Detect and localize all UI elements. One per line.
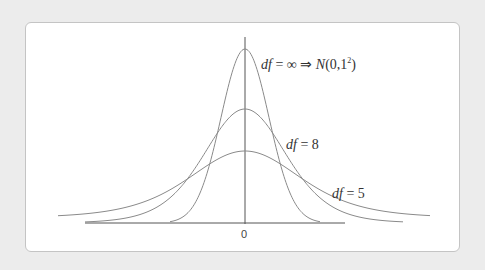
label-normal-n: N: [316, 57, 325, 72]
label-normal-params: (0,1: [325, 57, 347, 72]
label-df5: df = 5: [332, 186, 365, 202]
label-df8-df: df: [286, 137, 297, 152]
label-normal-eq: = ∞ ⇒: [272, 57, 316, 72]
label-df5-df: df: [332, 186, 343, 201]
curve-df5: [58, 151, 430, 216]
label-normal-df: df: [261, 57, 272, 72]
label-normal-close: ): [351, 57, 356, 72]
label-df5-value: = 5: [343, 186, 365, 201]
label-df8-value: = 8: [297, 137, 319, 152]
label-df8: df = 8: [286, 137, 319, 153]
x-tick-zero: 0: [241, 228, 247, 240]
label-normal: df = ∞ ⇒ N(0,12): [261, 56, 356, 73]
